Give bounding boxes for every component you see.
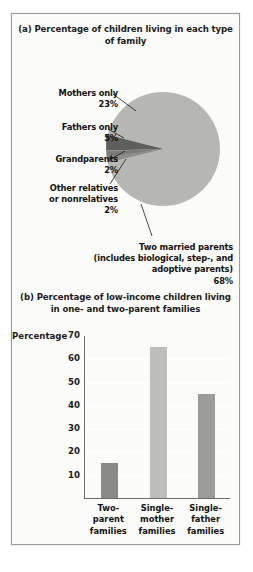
x-category-label-2: Single- mother families [129,503,185,537]
panel-b-title: (b) Percentage of low-income children li… [18,292,233,315]
bar-2 [150,347,167,498]
y-tick-label: 30 [58,423,80,433]
pie-label-grandparents: Grandparents 2% [20,154,118,176]
x-category-label-1: Two- parent families [80,503,136,537]
pie-label-mothers-only: Mothers only 23% [20,88,118,110]
bar-plot-area [84,336,230,499]
pie-label-other-relatives: Other relatives or nonrelatives 2% [14,183,118,217]
y-tick-label: 50 [58,377,80,387]
panel-b-bar-chart: (b) Percentage of low-income children li… [12,288,239,546]
pie-slices [106,92,220,206]
bar-3 [198,394,215,498]
y-tick-label: 70 [58,330,80,340]
y-tick-label: 20 [58,446,80,456]
x-category-label-3: Single- father families [178,503,234,537]
y-tick-label: 60 [58,353,80,363]
y-axis-title: Percentage [12,331,56,341]
y-tick-label: 40 [58,400,80,410]
y-axis-tick-labels: 10203040506070 [56,336,80,499]
y-tick-label: 10 [58,470,80,480]
pie-label-fathers-only: Fathers only 5% [20,122,118,144]
leader-line-married [141,204,152,236]
panel-a-pie-chart: (a) Percentage of children living in eac… [12,14,239,288]
pie-chart-graphic: Mothers only 23% Fathers only 5% Grandpa… [12,14,239,288]
pie-label-two-married-parents: Two married parents (includes biological… [68,242,233,287]
figure-frame: (a) Percentage of children living in eac… [11,13,240,545]
bar-1 [101,463,118,498]
